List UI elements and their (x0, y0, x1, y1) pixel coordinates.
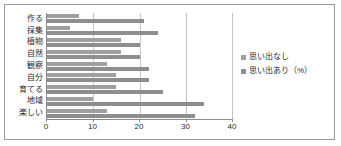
bar-group (47, 84, 232, 96)
chart-plot-wrapper: 作る採集植物自然観察自分育てる地域楽しい 010203040 (5, 5, 234, 139)
bar-group (47, 37, 232, 49)
gridline (232, 13, 233, 119)
bar-group (47, 13, 232, 25)
category-label: 観察 (7, 60, 45, 72)
legend-label: 思い出あり（%） (249, 67, 312, 75)
legend-item[interactable]: 思い出なし (241, 53, 336, 61)
bar (47, 38, 121, 42)
x-axis-tick-labels: 010203040 (46, 123, 232, 135)
bar (47, 85, 116, 89)
bar (47, 109, 107, 113)
legend-item[interactable]: 思い出あり（%） (241, 67, 336, 75)
legend-label: 思い出なし (249, 53, 289, 61)
category-label: 自分 (7, 72, 45, 84)
legend-swatch-icon (241, 69, 246, 74)
bar (47, 114, 195, 118)
bar-group (47, 60, 232, 72)
x-tick-label: 40 (228, 123, 237, 131)
bar (47, 26, 70, 30)
x-tick-label: 30 (181, 123, 190, 131)
x-tick-label: 10 (88, 123, 97, 131)
x-tick-label: 0 (44, 123, 48, 131)
bar (47, 102, 204, 106)
bars-layer (47, 13, 232, 119)
bar (47, 62, 107, 66)
bar (47, 43, 140, 47)
bar-group (47, 25, 232, 37)
plot-area (46, 13, 232, 119)
category-axis-labels: 作る採集植物自然観察自分育てる地域楽しい (7, 13, 45, 119)
category-label: 作る (7, 13, 45, 25)
bar (47, 14, 79, 18)
x-tick-label: 20 (135, 123, 144, 131)
bar (47, 73, 116, 77)
chart-frame: 作る採集植物自然観察自分育てる地域楽しい 010203040 思い出なし思い出あ… (4, 4, 335, 140)
bar-group (47, 107, 232, 119)
bar (47, 50, 121, 54)
bar (47, 67, 149, 71)
category-label: 地域 (7, 95, 45, 107)
category-label: 自然 (7, 48, 45, 60)
bar-group (47, 48, 232, 60)
chart-legend: 思い出なし思い出あり（%） (241, 53, 336, 75)
bar (47, 78, 149, 82)
category-label: 植物 (7, 37, 45, 49)
bar (47, 90, 163, 94)
category-label: 楽しい (7, 107, 45, 119)
category-label: 採集 (7, 25, 45, 37)
legend-swatch-icon (241, 55, 246, 60)
bar (47, 97, 93, 101)
bar-group (47, 95, 232, 107)
category-label: 育てる (7, 84, 45, 96)
bar (47, 19, 144, 23)
bar (47, 31, 158, 35)
bar (47, 55, 140, 59)
bar-group (47, 72, 232, 84)
